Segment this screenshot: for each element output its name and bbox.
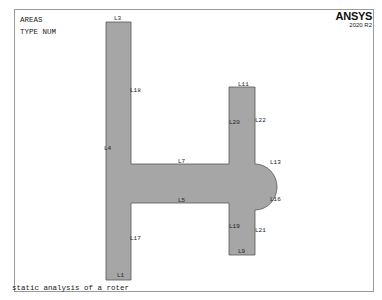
line-label: L11 (238, 81, 249, 88)
line-label: L22 (255, 117, 266, 124)
line-label: L4 (104, 145, 111, 152)
line-label: L21 (255, 227, 266, 234)
line-label: L20 (229, 119, 240, 126)
plot-caption: static analysis of a roter (12, 284, 129, 292)
line-label: L9 (238, 248, 245, 255)
line-label: L16 (270, 196, 281, 203)
line-label: L17 (130, 235, 141, 242)
brand-name: ANSYS (336, 11, 372, 22)
line-label: L3 (114, 15, 121, 22)
ansys-logo: ANSYS 2020 R2 (336, 11, 372, 29)
plot-subtitle: TYPE NUM (20, 28, 56, 36)
line-label: L19 (229, 223, 240, 230)
line-label: L18 (130, 87, 141, 94)
plot-title: AREAS (20, 16, 43, 24)
line-label: L7 (178, 158, 185, 165)
brand-version: 2020 R2 (336, 22, 372, 29)
line-label: L13 (270, 159, 281, 166)
line-label: L1 (117, 272, 124, 279)
areas-plot (0, 0, 382, 300)
line-label: L5 (178, 197, 185, 204)
